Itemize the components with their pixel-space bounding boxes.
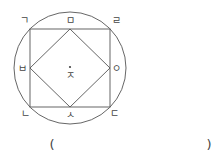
label-point-jieut: ㅈ [66,71,75,81]
label-point-rieul: ㄹ [112,16,121,26]
label-point-mieum: ㅁ [66,16,75,26]
label-point-bieup: ㅂ [18,64,27,74]
figure-canvas: ㄱ ㅁ ㄹ ㅂ ㅈ ㅇ ㄴ ㅅ ㄷ ( ) [0,0,221,162]
answer-close-paren: ) [206,138,211,151]
label-point-digeut: ㄷ [110,109,119,119]
answer-blank[interactable] [55,136,205,152]
label-point-giyeok: ㄱ [20,16,29,26]
label-point-nieun: ㄴ [21,109,30,119]
label-point-ieung: ㅇ [112,64,121,74]
answer-open-paren: ( [49,138,54,151]
center-point [69,66,71,68]
label-point-siot: ㅅ [66,110,75,120]
